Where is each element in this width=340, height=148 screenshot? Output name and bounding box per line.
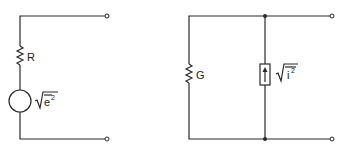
arrow-head-icon bbox=[263, 67, 268, 72]
junction-dot-icon bbox=[263, 137, 267, 141]
circuit-diagram: R e 2 G i 2 bbox=[0, 0, 340, 148]
voltage-source-label: e 2 bbox=[35, 92, 58, 108]
conductance-g-icon bbox=[186, 64, 192, 83]
left-bottom-wire bbox=[20, 112, 106, 139]
terminal-icon bbox=[330, 137, 334, 141]
svg-text:2: 2 bbox=[51, 94, 55, 101]
junction-dot-icon bbox=[263, 14, 267, 18]
svg-text:i: i bbox=[287, 69, 289, 81]
voltage-source-icon bbox=[9, 90, 31, 112]
svg-text:e: e bbox=[44, 96, 50, 108]
resistor-label: R bbox=[27, 51, 35, 63]
conductance-label: G bbox=[196, 69, 205, 81]
right-top-wire bbox=[189, 16, 331, 64]
left-circuit: R e 2 bbox=[9, 14, 109, 141]
left-top-wire bbox=[20, 16, 106, 46]
terminal-icon bbox=[330, 14, 334, 18]
terminal-icon bbox=[105, 14, 109, 18]
right-circuit: G i 2 bbox=[186, 14, 334, 141]
resistor-r-icon bbox=[17, 46, 23, 65]
right-bottom-wire bbox=[189, 83, 331, 139]
svg-text:2: 2 bbox=[291, 67, 295, 74]
terminal-icon bbox=[105, 137, 109, 141]
current-source-label: i 2 bbox=[276, 64, 298, 81]
